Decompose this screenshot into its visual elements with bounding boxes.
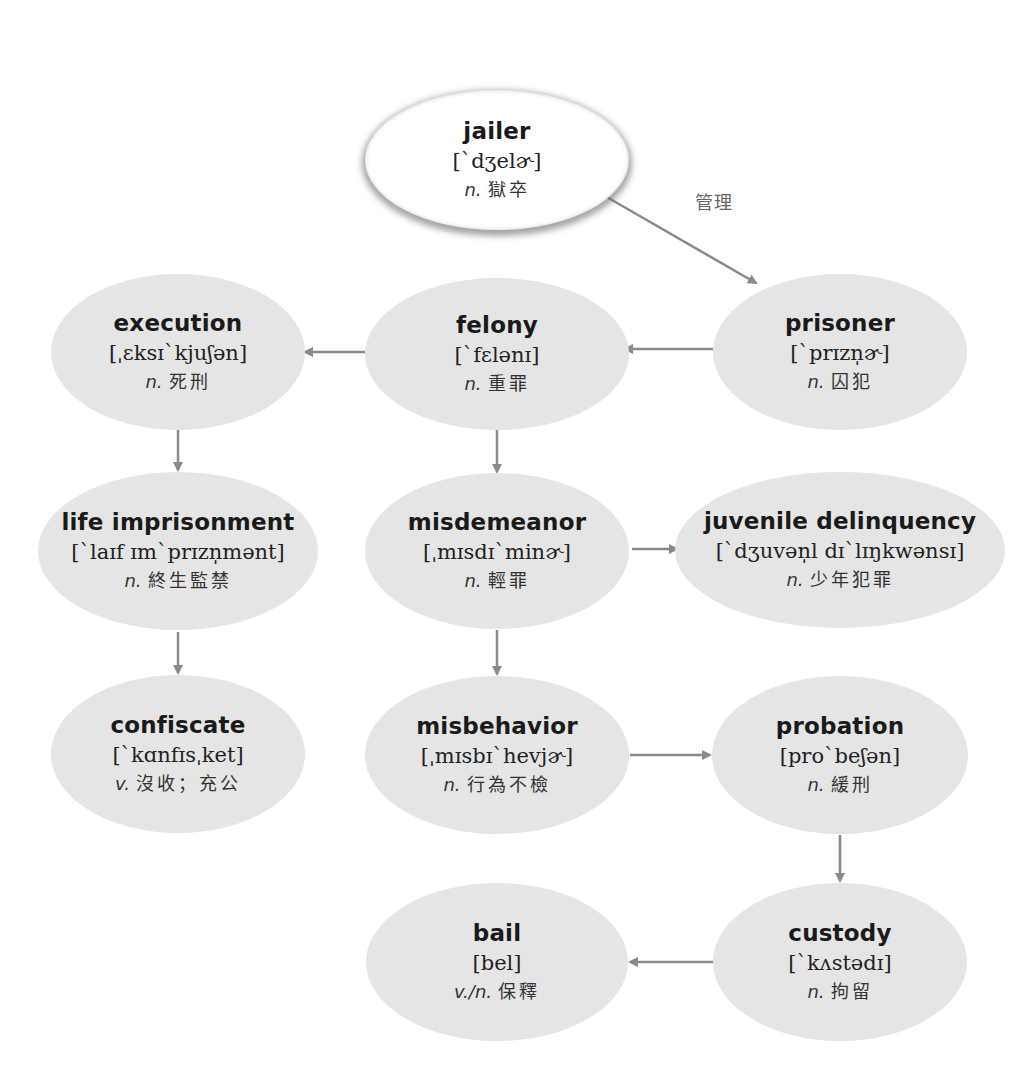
node-meaning: n.拘留 xyxy=(807,978,872,1006)
arrow-jailer-to-prisoner xyxy=(605,196,756,283)
node-pronunciation: [`fɛlənɪ] xyxy=(455,340,540,370)
node-word: custody xyxy=(788,918,891,948)
vocabulary-concept-map: jailer [`dʒelɚ] n.獄卒 prisoner [`prɪzn̩ɚ]… xyxy=(0,0,1030,1080)
node-part-of-speech: n. xyxy=(124,570,141,591)
node-translation: 獄卒 xyxy=(488,179,530,200)
node-translation: 沒收；充公 xyxy=(136,773,241,794)
node-meaning: n.終生監禁 xyxy=(124,567,231,595)
node-translation: 重罪 xyxy=(488,373,530,394)
concept-node-execution: execution [ˌɛksɪ`kjuʃən] n.死刑 xyxy=(51,274,305,430)
node-meaning: n.重罪 xyxy=(464,370,529,398)
node-part-of-speech: n. xyxy=(807,371,824,392)
node-meaning: n.獄卒 xyxy=(464,176,529,204)
concept-node-felony: felony [`fɛlənɪ] n.重罪 xyxy=(365,278,629,430)
node-pronunciation: [`prɪzn̩ɚ] xyxy=(790,338,889,368)
node-pronunciation: [`dʒelɚ] xyxy=(452,146,541,176)
node-part-of-speech: n. xyxy=(807,981,824,1002)
concept-node-life-imprisonment: life imprisonment [`laɪf ɪm`prɪzn̩mənt] … xyxy=(38,472,318,630)
node-part-of-speech: n. xyxy=(786,569,803,590)
node-meaning: n.行為不檢 xyxy=(443,771,550,799)
node-meaning: n.輕罪 xyxy=(464,567,529,595)
node-pronunciation: [ˌmɪsdɪ`minɚ] xyxy=(423,537,571,567)
node-part-of-speech: n. xyxy=(145,371,162,392)
node-meaning: n.囚犯 xyxy=(807,368,872,396)
node-word: felony xyxy=(456,310,538,340)
concept-node-bail: bail [bel] v./n.保釋 xyxy=(366,883,628,1041)
node-part-of-speech: n. xyxy=(807,774,824,795)
concept-node-juvenile-delinquency: juvenile delinquency [`dʒuvən̩l dɪ`lɪŋkw… xyxy=(675,472,1005,628)
node-pronunciation: [pro`beʃən] xyxy=(780,741,901,771)
node-pronunciation: [`laɪf ɪm`prɪzn̩mənt] xyxy=(71,537,285,567)
node-word: bail xyxy=(473,918,522,948)
node-word: misbehavior xyxy=(416,711,578,741)
node-word: probation xyxy=(776,711,904,741)
concept-node-prisoner: prisoner [`prɪzn̩ɚ] n.囚犯 xyxy=(713,274,967,430)
concept-node-misdemeanor: misdemeanor [ˌmɪsdɪ`minɚ] n.輕罪 xyxy=(365,473,629,629)
node-part-of-speech: n. xyxy=(464,570,481,591)
node-part-of-speech: v./n. xyxy=(454,981,492,1002)
concept-node-confiscate: confiscate [`kɑnfɪsˌket] v.沒收；充公 xyxy=(51,675,305,833)
node-translation: 囚犯 xyxy=(831,371,873,392)
concept-node-misbehavior: misbehavior [ˌmɪsbɪ`hevjɚ] n.行為不檢 xyxy=(365,676,629,834)
node-pronunciation: [bel] xyxy=(473,948,522,978)
node-translation: 行為不檢 xyxy=(467,774,551,795)
concept-node-custody: custody [`kʌstədɪ] n.拘留 xyxy=(713,883,967,1041)
node-meaning: v.沒收；充公 xyxy=(115,770,241,798)
node-translation: 保釋 xyxy=(498,981,540,1002)
node-part-of-speech: v. xyxy=(115,773,130,794)
node-pronunciation: [ˌɛksɪ`kjuʃən] xyxy=(109,338,247,368)
node-meaning: n.緩刑 xyxy=(807,771,872,799)
node-translation: 終生監禁 xyxy=(148,570,232,591)
node-pronunciation: [`kʌstədɪ] xyxy=(788,948,891,978)
node-translation: 死刑 xyxy=(169,371,211,392)
concept-node-probation: probation [pro`beʃən] n.緩刑 xyxy=(712,676,968,834)
node-word: juvenile delinquency xyxy=(704,506,976,536)
node-word: jailer xyxy=(463,116,530,146)
node-meaning: v./n.保釋 xyxy=(454,978,540,1006)
node-pronunciation: [`kɑnfɪsˌket] xyxy=(112,740,243,770)
node-pronunciation: [`dʒuvən̩l dɪ`lɪŋkwənsɪ] xyxy=(716,536,965,566)
node-translation: 輕罪 xyxy=(488,570,530,591)
node-translation: 緩刑 xyxy=(831,774,873,795)
node-meaning: n.少年犯罪 xyxy=(786,566,893,594)
node-word: prisoner xyxy=(785,308,895,338)
node-part-of-speech: n. xyxy=(443,774,460,795)
node-translation: 少年犯罪 xyxy=(810,569,894,590)
node-part-of-speech: n. xyxy=(464,373,481,394)
node-word: confiscate xyxy=(110,710,245,740)
node-meaning: n.死刑 xyxy=(145,368,210,396)
concept-node-jailer: jailer [`dʒelɚ] n.獄卒 xyxy=(365,90,629,230)
node-word: execution xyxy=(114,308,243,338)
edge-label: 管理 xyxy=(695,188,733,214)
node-pronunciation: [ˌmɪsbɪ`hevjɚ] xyxy=(421,741,573,771)
node-word: life imprisonment xyxy=(61,507,294,537)
node-part-of-speech: n. xyxy=(464,179,481,200)
node-translation: 拘留 xyxy=(831,981,873,1002)
node-word: misdemeanor xyxy=(408,507,586,537)
